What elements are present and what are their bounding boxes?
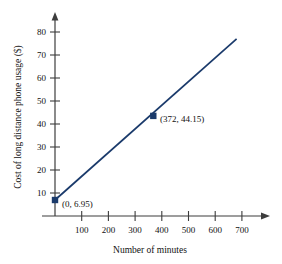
y-tick-label-group: 80 70 60 50 40 30 20 10 (37, 27, 47, 198)
data-point-label-second: (372, 44.15) (160, 114, 204, 124)
x-tick-label-group: 100 200 300 400 500 600 700 (75, 225, 249, 235)
chart-canvas: 80 70 60 50 40 30 20 10 100 200 300 400 … (0, 0, 282, 264)
y-tick-label-10: 10 (37, 188, 47, 198)
x-axis-title: Number of minutes (113, 245, 187, 255)
y-axis-arrowhead (52, 12, 59, 21)
data-point-label-origin: (0, 6.95) (62, 199, 93, 209)
y-tick-label-20: 20 (37, 165, 47, 175)
y-tick-label-60: 60 (37, 73, 47, 83)
y-tick-label-70: 70 (37, 50, 47, 60)
data-point-marker-origin (52, 197, 58, 203)
y-tick-label-40: 40 (37, 119, 47, 129)
data-point-marker-second (150, 113, 156, 119)
x-axis-arrowhead (261, 212, 270, 219)
y-tick-label-80: 80 (37, 27, 47, 37)
data-series-line (55, 39, 237, 200)
x-tick-label-500: 500 (182, 225, 196, 235)
x-tick-label-700: 700 (235, 225, 249, 235)
line-chart: 80 70 60 50 40 30 20 10 100 200 300 400 … (0, 0, 282, 264)
x-tick-label-400: 400 (155, 225, 169, 235)
x-tick-label-300: 300 (128, 225, 142, 235)
x-tick-label-600: 600 (208, 225, 222, 235)
x-tick-label-100: 100 (75, 225, 89, 235)
y-tick-label-50: 50 (37, 96, 47, 106)
x-tick-label-200: 200 (102, 225, 116, 235)
y-tick-label-30: 30 (37, 142, 47, 152)
y-axis-title: Cost of long distance phone usage ($) (13, 45, 24, 189)
